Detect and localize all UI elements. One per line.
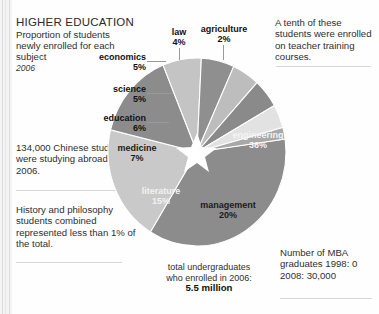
slice-label-science-pct: 5% [84, 94, 146, 104]
pie-caption: total undergraduates who enrolled in 200… [148, 262, 270, 294]
slice-label-engineering: engineering 36% [221, 130, 295, 150]
slice-label-education-text: education [103, 113, 146, 123]
divider-4 [280, 298, 372, 299]
slice-label-law: law 4% [166, 27, 192, 47]
slice-label-management: management 20% [192, 200, 264, 220]
leader-agriculture [223, 45, 224, 60]
slice-label-agriculture-text: agriculture [201, 24, 248, 34]
slice-label-medicine-text: medicine [117, 143, 156, 153]
year-label: 2006 [16, 63, 35, 73]
note-teacher-training: A tenth of these students were enrolled … [275, 17, 375, 62]
slice-label-agriculture: agriculture 2% [196, 24, 252, 44]
caption-line-2: who enrolled in 2006: [166, 273, 252, 283]
slice-label-science-text: science [113, 84, 146, 94]
leader-law [179, 48, 180, 60]
slice-label-law-pct: 4% [166, 37, 192, 47]
divider-2 [16, 262, 122, 263]
slice-label-economics: economics 5% [84, 52, 146, 72]
slice-label-engineering-pct: 36% [249, 140, 267, 150]
leader-science [147, 93, 173, 94]
slice-label-engineering-text: engineering [232, 130, 283, 140]
slice-label-education-pct: 6% [73, 123, 146, 133]
slice-label-economics-pct: 5% [84, 62, 146, 72]
infographic-page: HIGHER EDUCATION Proportion of students … [0, 0, 379, 314]
slice-label-literature-pct: 15% [152, 196, 170, 206]
gutter-stripe-1 [2, 0, 3, 314]
caption-line-1: total undergraduates [168, 262, 251, 272]
slice-label-law-text: law [172, 27, 187, 37]
slice-label-medicine-pct: 7% [130, 153, 143, 163]
slice-label-literature-text: literature [142, 186, 181, 196]
slice-label-agriculture-pct: 2% [196, 34, 252, 44]
slice-label-economics-text: economics [99, 52, 146, 62]
page-title: HIGHER EDUCATION [16, 16, 134, 28]
gutter-stripe-3 [9, 0, 10, 314]
note-mba-graduates: Number of MBA graduates 1998: 0 2008: 30… [280, 247, 378, 281]
leader-economics [147, 61, 166, 62]
slice-label-management-text: management [200, 200, 256, 210]
caption-total-value: 5.5 million [186, 282, 233, 293]
slice-label-management-pct: 20% [219, 210, 237, 220]
divider-3 [276, 66, 371, 67]
slice-label-literature: literature 15% [133, 186, 189, 206]
slice-label-science: science 5% [84, 84, 146, 104]
slice-label-medicine: medicine 7% [111, 143, 163, 163]
leader-education [147, 122, 169, 123]
slice-label-education: education 6% [73, 113, 146, 133]
gutter-stripe-2 [5, 0, 6, 314]
left-gutter [0, 0, 12, 314]
